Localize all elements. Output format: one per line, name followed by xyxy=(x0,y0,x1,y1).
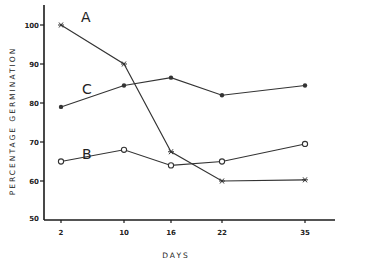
axes xyxy=(44,5,335,220)
series-label-c: C xyxy=(82,81,92,97)
open-circle-marker xyxy=(121,147,126,152)
x-axis-ticks: 210162235 xyxy=(59,220,310,237)
open-circle-marker xyxy=(168,163,173,168)
dot-marker xyxy=(220,93,224,97)
series-b: B xyxy=(58,141,307,168)
dot-marker xyxy=(169,75,173,79)
dot-marker xyxy=(303,83,307,87)
x-tick-label: 35 xyxy=(300,229,310,237)
series-a: A xyxy=(58,9,308,184)
dot-marker xyxy=(59,105,63,109)
series-lines: ABC xyxy=(58,9,308,184)
y-tick-label: 80 xyxy=(29,100,39,108)
open-circle-marker xyxy=(58,159,63,164)
x-tick-label: 22 xyxy=(217,229,227,237)
x-tick-label: 2 xyxy=(59,229,64,237)
x-tick-label: 10 xyxy=(119,229,129,237)
open-circle-marker xyxy=(302,141,307,146)
y-axis-title: PERCENTAGE GERMINATION xyxy=(8,47,17,196)
y-tick-label: 70 xyxy=(29,139,39,147)
series-label-b: B xyxy=(82,146,92,162)
y-tick-label: 100 xyxy=(24,22,39,30)
series-label-a: A xyxy=(81,9,91,25)
y-tick-label: 90 xyxy=(29,61,39,69)
y-tick-label: 60 xyxy=(29,178,39,186)
x-tick-label: 16 xyxy=(166,229,176,237)
dot-marker xyxy=(122,83,126,87)
y-tick-label: 50 xyxy=(29,215,39,223)
open-circle-marker xyxy=(219,159,224,164)
germination-line-chart: 5060708090100 210162235 DAYS PERCENTAGE … xyxy=(0,0,367,266)
series-c: C xyxy=(59,75,307,109)
y-axis-ticks: 5060708090100 xyxy=(24,22,44,223)
star-marker xyxy=(302,177,308,182)
x-axis-title: DAYS xyxy=(162,251,190,260)
